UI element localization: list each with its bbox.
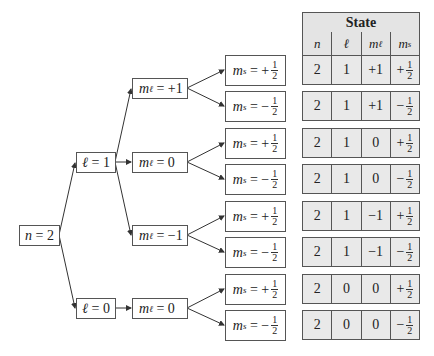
var-label: m: [233, 99, 243, 115]
header-subscript: s: [408, 39, 412, 49]
cell-ms: +12: [391, 202, 419, 230]
denominator: 2: [407, 253, 412, 263]
fraction: 12: [271, 206, 278, 227]
table-row: 2 1 −1 −12: [302, 237, 420, 267]
denominator: 2: [272, 253, 277, 263]
equals: =: [250, 172, 258, 188]
equals: =: [156, 155, 164, 171]
var-label: n: [25, 228, 32, 244]
value-label: +1: [168, 81, 183, 97]
fraction: 12: [406, 169, 413, 190]
var-label: m: [233, 136, 243, 152]
subscript: ℓ: [149, 304, 153, 314]
var-label: ℓ: [82, 155, 88, 171]
cell-l: 1: [332, 92, 361, 120]
cell-ms: −12: [391, 92, 419, 120]
header-label: m: [398, 36, 407, 52]
equals: =: [250, 282, 258, 298]
fraction: 12: [406, 133, 413, 154]
header-label: ℓ: [344, 36, 349, 52]
node-ms-5: ms = +12: [225, 201, 286, 232]
denominator: 2: [272, 144, 277, 154]
var-label: m: [139, 81, 149, 97]
numerator: 1: [406, 206, 413, 217]
table-title-label: State: [346, 15, 376, 31]
table-row: 2 1 +1 −12: [302, 91, 420, 121]
var-label: m: [139, 228, 149, 244]
cell-n: 2: [303, 275, 332, 303]
node-ml-0: mℓ = 0: [132, 152, 188, 173]
fraction: 12: [406, 279, 413, 300]
value-label: 2: [47, 228, 54, 244]
subscript: s: [243, 102, 247, 112]
cell-l: 0: [332, 311, 361, 339]
node-ms-1: ms = +12: [225, 55, 286, 86]
var-label: m: [233, 63, 243, 79]
cell-ms: +12: [391, 275, 419, 303]
sign: +: [261, 136, 269, 152]
equals: =: [156, 228, 164, 244]
equals: =: [250, 245, 258, 261]
cell-ml: −1: [362, 202, 391, 230]
header-ms: ms: [391, 32, 419, 55]
subscript: s: [243, 212, 247, 222]
table-title: State: [302, 12, 420, 33]
var-label: m: [139, 301, 149, 317]
numerator: 1: [406, 242, 413, 253]
sign: +: [261, 63, 269, 79]
cell-ml: 0: [362, 129, 391, 157]
sign: +: [396, 208, 404, 224]
denominator: 2: [272, 71, 277, 81]
sign: +: [396, 135, 404, 151]
value-label: 0: [103, 301, 110, 317]
denominator: 2: [407, 144, 412, 154]
numerator: 1: [406, 133, 413, 144]
var-label: m: [139, 155, 149, 171]
node-ms-4: ms = −12: [225, 164, 286, 195]
equals: =: [250, 209, 258, 225]
value-label: −1: [168, 228, 183, 244]
denominator: 2: [407, 107, 412, 117]
header-n: n: [303, 32, 332, 55]
header-l: ℓ: [332, 32, 361, 55]
node-ms-2: ms = −12: [225, 91, 286, 122]
denominator: 2: [407, 71, 412, 81]
subscript: s: [243, 66, 247, 76]
sign: −: [396, 171, 404, 187]
header-label: n: [314, 36, 321, 52]
cell-ml: 0: [362, 275, 391, 303]
subscript: s: [243, 285, 247, 295]
value-label: 0: [168, 301, 175, 317]
sign: +: [396, 281, 404, 297]
sign: +: [396, 62, 404, 78]
node-ms-7: ms = +12: [225, 274, 286, 305]
cell-ml: +1: [362, 92, 391, 120]
subscript: s: [243, 321, 247, 331]
cell-l: 1: [332, 56, 361, 84]
denominator: 2: [407, 217, 412, 227]
cell-l: 1: [332, 238, 361, 266]
header-subscript: ℓ: [378, 39, 382, 49]
fraction: 12: [271, 96, 278, 117]
cell-l: 1: [332, 129, 361, 157]
denominator: 2: [272, 107, 277, 117]
node-n-2: n = 2: [19, 225, 60, 246]
sign: −: [261, 318, 269, 334]
denominator: 2: [272, 290, 277, 300]
var-label: ℓ: [82, 301, 88, 317]
table-row: 2 1 0 +12: [302, 128, 420, 158]
cell-ml: +1: [362, 56, 391, 84]
denominator: 2: [407, 180, 412, 190]
denominator: 2: [407, 326, 412, 336]
cell-n: 2: [303, 56, 332, 84]
sign: −: [261, 172, 269, 188]
fraction: 12: [271, 279, 278, 300]
var-label: m: [233, 318, 243, 334]
value-label: 1: [103, 155, 110, 171]
fraction: 12: [406, 206, 413, 227]
table-header-row: n ℓ mℓ ms: [302, 32, 420, 56]
subscript: ℓ: [149, 84, 153, 94]
cell-n: 2: [303, 202, 332, 230]
table-row: 2 1 −1 +12: [302, 201, 420, 231]
fraction: 12: [406, 96, 413, 117]
